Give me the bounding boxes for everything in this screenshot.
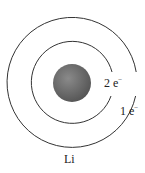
- bohr-model-diagram: 2 e− 1 e− Li: [0, 0, 145, 173]
- inner-shell-electron-label: 2 e−: [104, 76, 122, 90]
- outer-shell-electron-label: 1 e−: [120, 104, 138, 118]
- nucleus: [53, 64, 91, 102]
- element-symbol-label: Li: [64, 152, 75, 166]
